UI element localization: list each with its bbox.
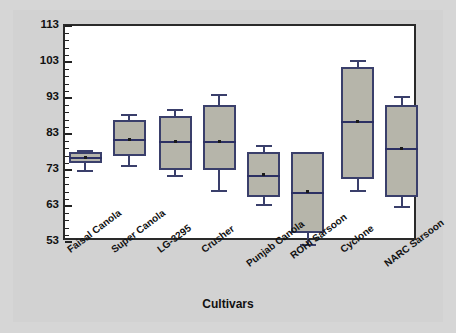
whisker-cap-upper (256, 145, 272, 147)
whisker-cap-lower (256, 204, 272, 206)
mean-marker (306, 190, 309, 193)
whisker-cap-lower (350, 190, 366, 192)
y-tick-label: 83 (46, 126, 59, 138)
whisker-lower (401, 197, 403, 206)
y-axis-tick-labels: 5363738393103113 (28, 24, 59, 240)
y-tick-label: 63 (46, 198, 59, 210)
y-tick-label: 93 (46, 90, 59, 102)
y-tick-label: 113 (40, 18, 59, 30)
whisker-cap-lower (77, 170, 93, 172)
mean-marker (218, 140, 221, 143)
whisker-cap-lower (211, 190, 227, 192)
boxplot-box (203, 26, 236, 242)
whisker-cap-upper (350, 60, 366, 62)
box-iqr-rect (385, 105, 418, 197)
y-tick-label: 73 (46, 162, 59, 174)
x-axis-title: Cultivars (0, 297, 456, 311)
whisker-lower (263, 197, 265, 204)
whisker-cap-upper (121, 114, 137, 116)
whisker-cap-lower (394, 206, 410, 208)
y-tick-label: 103 (40, 54, 59, 66)
boxplot-box (69, 26, 102, 242)
mean-marker (174, 140, 177, 143)
boxplot-box (385, 26, 418, 242)
whisker-lower (357, 179, 359, 190)
boxplot-box (291, 26, 324, 242)
box-iqr-rect (203, 105, 236, 170)
mean-marker (128, 138, 131, 141)
mean-marker (84, 156, 87, 159)
figure-canvas: Days to Anthesis (DTA) 5363738393103113 … (0, 0, 456, 333)
whisker-cap-upper (211, 94, 227, 96)
boxplot-box (113, 26, 146, 242)
plot-area (63, 24, 416, 240)
y-tick-label: 53 (46, 234, 59, 246)
whisker-cap-upper (394, 96, 410, 98)
whisker-cap-upper (167, 109, 183, 111)
mean-marker (262, 173, 265, 176)
mean-marker (356, 120, 359, 123)
whisker-cap-lower (300, 244, 316, 246)
boxplot-box (341, 26, 374, 242)
whisker-cap-lower (167, 175, 183, 177)
boxplot-box (247, 26, 280, 242)
boxplot-box (159, 26, 192, 242)
whisker-lower (84, 163, 86, 170)
whisker-lower (128, 156, 130, 165)
whisker-lower (307, 233, 309, 244)
whisker-lower (218, 170, 220, 190)
whisker-cap-lower (121, 165, 137, 167)
mean-marker (400, 147, 403, 150)
